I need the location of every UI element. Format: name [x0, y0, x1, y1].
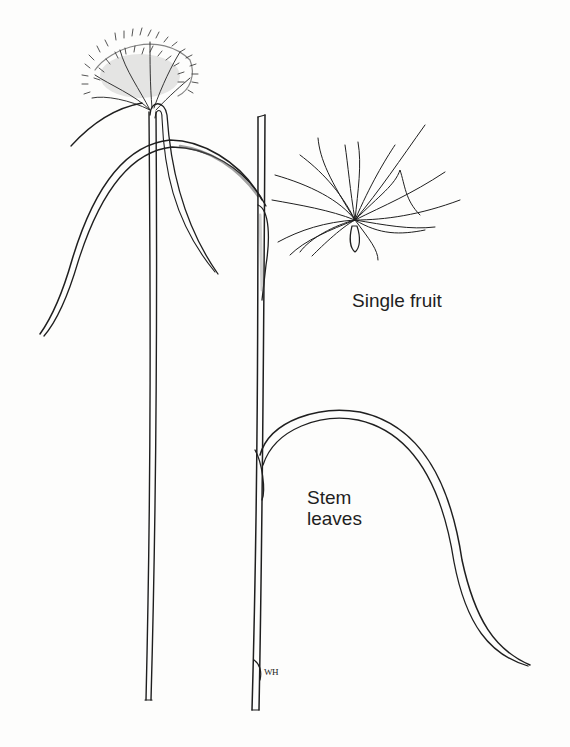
- upper-leaf: [40, 140, 266, 336]
- left-stem: [145, 112, 157, 700]
- single-fruit-drawing: [272, 125, 460, 260]
- plant-illustration: [0, 0, 570, 747]
- single-fruit-label: Single fruit: [352, 290, 442, 311]
- main-stem: [252, 115, 268, 710]
- lower-stem-leaf: [260, 410, 530, 666]
- inner-loop-stem: [150, 104, 218, 274]
- stem-leaves-label: Stem leaves: [307, 487, 362, 529]
- artist-signature: WH: [264, 667, 278, 677]
- flower-head: [82, 28, 198, 110]
- head-bract: [71, 103, 142, 146]
